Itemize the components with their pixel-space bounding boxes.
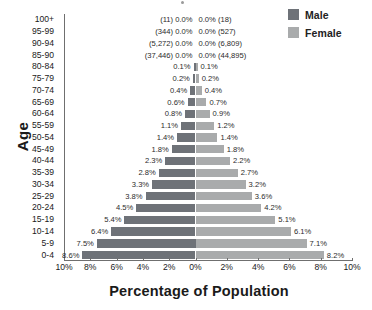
value-label-female: 4.2%	[264, 202, 281, 213]
x-axis-tick-label: 10%	[335, 262, 369, 272]
pyramid-row: 5.4%5.1%	[64, 214, 352, 225]
value-label-male: 0.6%	[167, 97, 184, 108]
value-label-female: 0.2%	[202, 73, 219, 84]
pyramid-row: 8.6%8.2%	[64, 250, 352, 261]
pyramid-row: 6.4%6.1%	[64, 226, 352, 237]
x-axis-tick-label: 2%	[210, 262, 244, 272]
value-label-male: 3.3%	[132, 179, 149, 190]
value-label-female: 6.1%	[294, 226, 311, 237]
y-axis-tick-100+: 100+	[0, 14, 54, 25]
pyramid-row: 3.8%3.6%	[64, 191, 352, 202]
value-label-male: 4.5%	[116, 202, 133, 213]
value-label-male: (5,272) 0.0%	[149, 38, 192, 49]
bar-female	[196, 86, 202, 94]
bar-female	[196, 63, 198, 71]
value-label-female: 7.1%	[310, 238, 327, 249]
x-axis-tick-mark	[169, 258, 170, 261]
y-axis-tick-40-44: 40-44	[0, 155, 54, 166]
bar-female	[196, 227, 291, 235]
value-label-female: 2.2%	[233, 155, 250, 166]
bar-female	[196, 216, 276, 224]
y-axis-tick-95-99: 95-99	[0, 26, 54, 37]
y-axis-tick-35-39: 35-39	[0, 167, 54, 178]
bar-male	[152, 180, 195, 188]
x-axis-tick-mark	[258, 258, 259, 261]
bar-male	[185, 110, 196, 118]
x-axis-tick-mark	[196, 258, 197, 261]
value-label-male: (37,446) 0.0%	[145, 50, 193, 61]
y-axis-tick-65-69: 65-69	[0, 97, 54, 108]
value-label-male: 1.4%	[157, 132, 174, 143]
y-axis-tick-labels: 100+95-9990-9485-9080-8475-7970-7465-696…	[0, 14, 60, 261]
value-label-male: 0.8%	[165, 108, 182, 119]
x-axis-tick-mark	[227, 258, 228, 261]
y-axis-tick-80-84: 80-84	[0, 61, 54, 72]
bar-male	[146, 192, 196, 200]
value-label-female: 1.4%	[220, 132, 237, 143]
bar-female	[196, 180, 246, 188]
bar-male	[165, 157, 195, 165]
x-axis-tick-mark	[321, 258, 322, 261]
bar-male	[136, 204, 195, 212]
y-axis-tick-15-19: 15-19	[0, 214, 54, 225]
bar-female	[196, 122, 215, 130]
bar-male	[159, 169, 196, 177]
value-label-male: 0.4%	[170, 85, 187, 96]
y-axis-tick-45-49: 45-49	[0, 144, 54, 155]
x-axis-tick-mark	[64, 258, 65, 261]
value-label-male: (11) 0.0%	[160, 14, 192, 25]
bar-male	[124, 216, 195, 224]
y-axis-tick-85-90: 85-90	[0, 50, 54, 61]
value-label-male: 1.1%	[161, 120, 178, 131]
pyramid-row: (11) 0.0%0.0% (18)	[64, 14, 352, 25]
bar-female	[196, 98, 207, 106]
y-axis-tick-60-64: 60-64	[0, 108, 54, 119]
y-axis-tick-25-29: 25-29	[0, 191, 54, 202]
x-axis-tick-label: 4%	[241, 262, 275, 272]
x-axis-tick-label: 8%	[304, 262, 338, 272]
value-label-male: 2.8%	[138, 167, 155, 178]
value-label-female: 0.0% (527)	[199, 26, 236, 37]
y-axis-tick-0-4: 0-4	[0, 250, 54, 261]
value-label-female: 5.1%	[278, 214, 295, 225]
pyramid-row: 0.1%0.1%	[64, 61, 352, 72]
pyramid-row: (37,446) 0.0%0.0% (44,895)	[64, 50, 352, 61]
value-label-male: 0.2%	[173, 73, 190, 84]
y-axis-tick-50-54: 50-54	[0, 132, 54, 143]
value-label-female: 0.0% (6,809)	[199, 38, 242, 49]
bar-female	[196, 157, 230, 165]
value-label-female: 1.8%	[227, 144, 244, 155]
x-axis-tick-label: 0%	[179, 262, 213, 272]
x-axis-tick-labels: 10%8%6%4%2%0%2%4%6%8%10%	[64, 262, 352, 276]
bar-male	[111, 227, 195, 235]
bar-female	[196, 169, 238, 177]
pyramid-row: (5,272) 0.0%0.0% (6,809)	[64, 38, 352, 49]
pyramid-row: (344) 0.0%0.0% (527)	[64, 26, 352, 37]
value-label-female: 0.9%	[213, 108, 230, 119]
x-axis-tick-mark	[117, 258, 118, 261]
pyramid-row: 3.3%3.2%	[64, 179, 352, 190]
x-axis-tick-mark	[289, 258, 290, 261]
x-axis-tick-mark	[143, 258, 144, 261]
bar-female	[196, 145, 224, 153]
value-label-male: (344) 0.0%	[155, 26, 192, 37]
pyramid-row: 0.6%0.7%	[64, 97, 352, 108]
bar-female	[196, 192, 252, 200]
value-label-male: 3.8%	[125, 191, 142, 202]
value-label-female: 1.2%	[217, 120, 234, 131]
value-label-female: 0.1%	[201, 61, 218, 72]
y-axis-tick-70-74: 70-74	[0, 85, 54, 96]
y-axis-tick-90-94: 90-94	[0, 38, 54, 49]
x-axis-tick-mark	[90, 258, 91, 261]
value-label-female: 0.7%	[209, 97, 226, 108]
value-label-male: 7.5%	[77, 238, 94, 249]
pyramid-row: 1.8%1.8%	[64, 144, 352, 155]
y-axis-tick-75-79: 75-79	[0, 73, 54, 84]
y-axis-tick-5-9: 5-9	[0, 238, 54, 249]
bar-female	[196, 74, 199, 82]
value-label-female: 8.2%	[327, 250, 344, 261]
y-axis-tick-20-24: 20-24	[0, 202, 54, 213]
bar-female	[196, 110, 210, 118]
page-marker-dot	[181, 1, 184, 4]
population-pyramid-chart: Male Female Age 100+95-9990-9485-9080-84…	[0, 0, 372, 310]
